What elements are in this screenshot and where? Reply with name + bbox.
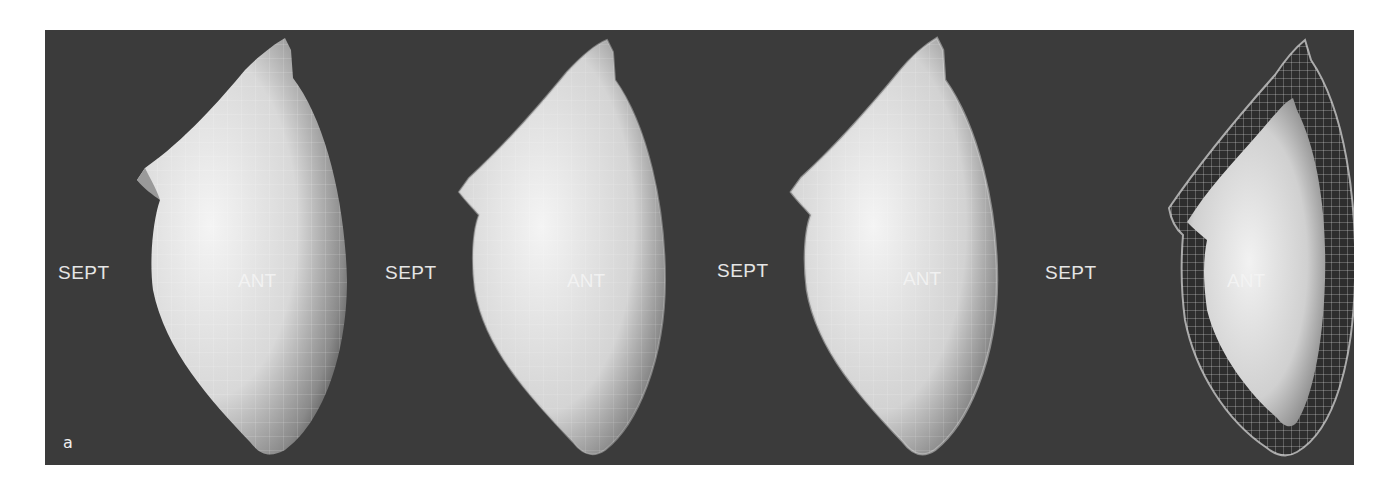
sept-label: SEPT bbox=[717, 260, 769, 282]
sept-label: SEPT bbox=[385, 262, 437, 284]
panel-letter: a bbox=[63, 433, 73, 452]
ant-label: ANT bbox=[903, 268, 941, 290]
ventricle-render-icon bbox=[375, 30, 705, 465]
ventricle-render-icon bbox=[1035, 30, 1354, 465]
ventricle-render-icon bbox=[45, 30, 375, 465]
sept-label: SEPT bbox=[1045, 262, 1097, 284]
ant-label: ANT bbox=[1227, 270, 1265, 292]
panel-1: SEPT ANT a bbox=[45, 30, 375, 465]
panel-2: SEPT ANT bbox=[375, 30, 705, 465]
ant-label: ANT bbox=[238, 270, 276, 292]
panel-4: SEPT ANT bbox=[1035, 30, 1354, 465]
figure-frame: SEPT ANT a SEPT ANT bbox=[45, 30, 1354, 465]
panel-3: SEPT ANT bbox=[705, 30, 1035, 465]
ant-label: ANT bbox=[567, 270, 605, 292]
sept-label: SEPT bbox=[58, 262, 110, 284]
ventricle-render-icon bbox=[705, 30, 1035, 465]
